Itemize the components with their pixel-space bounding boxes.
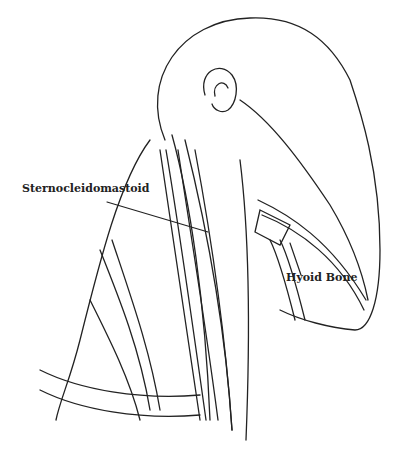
neck-illustration — [0, 0, 394, 457]
label-sternocleidomastoid: Sternocleidomastoid — [22, 182, 149, 195]
label-hyoid-bone: Hyoid Bone — [286, 271, 357, 284]
anatomy-diagram: Sternocleidomastoid Hyoid Bone — [0, 0, 394, 457]
